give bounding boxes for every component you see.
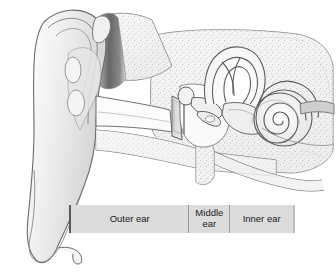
legend-label-middle-ear-line1: Middle bbox=[195, 207, 223, 218]
concha-opening-lower bbox=[68, 90, 85, 116]
legend-label-middle-ear: Middle ear bbox=[195, 208, 223, 229]
legend-cell-middle-ear: Middle ear bbox=[189, 205, 229, 233]
concha-opening-upper bbox=[65, 57, 81, 83]
legend-cell-outer-ear: Outer ear bbox=[71, 205, 188, 233]
legend-cell-inner-ear: Inner ear bbox=[230, 205, 293, 233]
legend-label-inner-ear: Inner ear bbox=[243, 214, 281, 225]
legend-right-edge bbox=[293, 205, 295, 233]
figure-canvas: Outer ear Middle ear Inner ear bbox=[0, 0, 336, 276]
ear-anatomy-illustration bbox=[0, 0, 336, 276]
ear-region-legend-bar: Outer ear Middle ear Inner ear bbox=[69, 205, 295, 233]
legend-label-middle-ear-line2: ear bbox=[202, 218, 216, 229]
legend-label-outer-ear: Outer ear bbox=[110, 214, 150, 225]
